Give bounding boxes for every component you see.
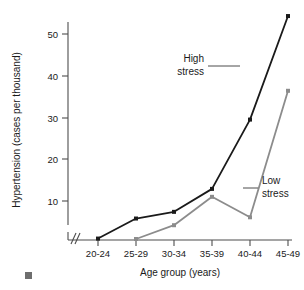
low-stress-label-line1: Low — [262, 175, 281, 186]
high-stress-line — [98, 16, 288, 239]
data-point — [248, 215, 252, 219]
high-stress-label-line1: High — [183, 53, 204, 64]
x-tick-label-45-49: 45-49 — [276, 248, 300, 259]
x-tick-label-40-44: 40-44 — [238, 248, 262, 259]
data-point — [134, 217, 138, 221]
data-point — [286, 89, 290, 93]
chart-canvas: 10 20 30 40 50 20-24 25-29 30-34 35-39 4… — [0, 0, 304, 290]
data-point — [248, 118, 252, 122]
y-tick-label-30: 30 — [47, 113, 58, 124]
low-stress-line — [136, 91, 288, 239]
x-tick-label-30-34: 30-34 — [162, 248, 186, 259]
data-point — [172, 210, 176, 214]
data-point — [210, 187, 214, 191]
y-tick-label-10: 10 — [47, 196, 58, 207]
axis-break-icon — [71, 233, 80, 244]
annotation-low-stress: Low stress — [243, 175, 289, 199]
data-point — [172, 223, 176, 227]
y-tick-label-40: 40 — [47, 71, 58, 82]
x-axis-title: Age group (years) — [140, 267, 220, 278]
high-stress-label-line2: stress — [177, 66, 204, 77]
x-tick-label-20-24: 20-24 — [86, 248, 110, 259]
y-axis-title: Hypertension (cases per thousand) — [11, 52, 22, 208]
x-tick-label-25-29: 25-29 — [124, 248, 148, 259]
data-point — [210, 195, 214, 199]
x-tick-label-35-39: 35-39 — [200, 248, 224, 259]
high-stress-markers — [96, 14, 290, 241]
series-low-stress — [134, 89, 290, 241]
corner-marker-square — [25, 272, 32, 279]
y-axis-ticks — [62, 34, 68, 201]
data-point — [286, 14, 290, 18]
data-point — [96, 237, 100, 241]
data-point — [134, 237, 138, 241]
x-axis-ticks — [98, 240, 288, 246]
low-stress-label-line2: stress — [262, 188, 289, 199]
series-high-stress — [96, 14, 290, 241]
annotation-high-stress: High stress — [177, 53, 240, 77]
y-tick-label-50: 50 — [47, 29, 58, 40]
y-tick-label-20: 20 — [47, 154, 58, 165]
hypertension-line-chart: 10 20 30 40 50 20-24 25-29 30-34 35-39 4… — [0, 0, 304, 290]
